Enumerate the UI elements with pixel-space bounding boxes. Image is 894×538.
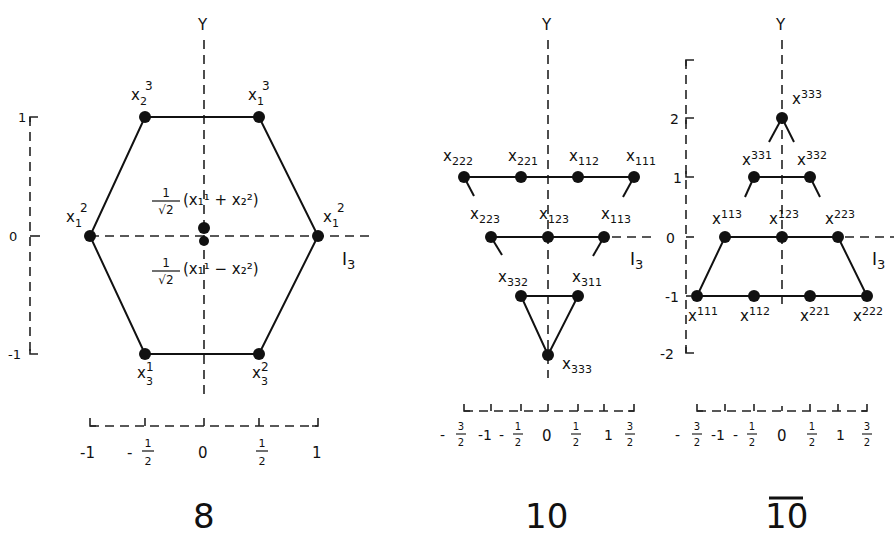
svg-text:-1: -1	[80, 444, 95, 462]
antidecuplet-label-x123: x123	[769, 208, 799, 228]
antidecuplet-state-x223	[832, 231, 844, 243]
svg-text:1: 1	[515, 421, 521, 432]
svg-text:2: 2	[694, 437, 700, 448]
svg-text:1: 1	[162, 256, 170, 270]
svg-text:0: 0	[777, 427, 787, 445]
decuplet-title: 10	[525, 496, 568, 536]
antidecuplet-state-x332	[804, 171, 816, 183]
decuplet-label-x112: x112	[569, 147, 599, 168]
svg-text:2: 2	[864, 437, 870, 448]
octet-label-x3-1: x31	[137, 360, 154, 388]
antidecuplet-label-x112: x112	[740, 305, 770, 325]
octet-state-x3-1	[139, 348, 151, 360]
svg-text:2: 2	[259, 455, 266, 468]
svg-text:1: 1	[604, 427, 613, 443]
decuplet-label-x113: x113	[601, 205, 631, 226]
decuplet-state-x112	[572, 171, 584, 183]
svg-text:2: 2	[573, 437, 579, 448]
octet-label-x2-3: x23	[131, 79, 153, 108]
decuplet-label-x111: x111	[626, 147, 656, 168]
octet-state-x2-3	[139, 111, 151, 123]
svg-text:2: 2	[458, 437, 464, 448]
svg-text:0: 0	[666, 230, 675, 246]
svg-text:-: -	[675, 427, 680, 443]
svg-text:3: 3	[694, 421, 700, 432]
decuplet-state-x111	[628, 171, 640, 183]
antidecuplet-label-x331: x331	[742, 149, 772, 169]
octet-state-right	[312, 230, 324, 242]
svg-text:1: 1	[809, 421, 815, 432]
octet-y-axis-label: Y	[197, 16, 208, 34]
octet-panel: Y I3 x23 x13 x12 x12 x31 x3	[8, 16, 370, 536]
svg-text:2: 2	[627, 437, 633, 448]
antidecuplet-i3-label: I3	[872, 249, 885, 272]
antidecuplet-state-x221	[804, 290, 816, 302]
svg-text:2: 2	[145, 455, 152, 468]
decuplet-label-x311: x311	[572, 268, 602, 289]
svg-text:1: 1	[573, 421, 579, 432]
svg-text:1: 1	[18, 110, 26, 125]
decuplet-state-x223	[485, 231, 497, 243]
octet-state-left	[84, 230, 96, 242]
octet-center-state-lower	[199, 236, 209, 246]
decuplet-i3-label: I3	[630, 249, 643, 272]
octet-label-x1-3: x13	[248, 79, 270, 108]
octet-i3-label: I3	[342, 249, 355, 272]
antidecuplet-y-axis-label: Y	[775, 16, 786, 34]
antidecuplet-panel: Y I3 x333 x331 x332 x113 x123 x223 x111 …	[660, 16, 894, 536]
svg-text:(x₁¹ + x₂²): (x₁¹ + x₂²)	[183, 191, 259, 209]
antidecuplet-label-x111: x111	[688, 305, 718, 325]
svg-text:-: -	[499, 427, 504, 443]
octet-title: 8	[193, 496, 215, 536]
weight-diagram-figure: Y I3 x23 x13 x12 x12 x31 x3	[0, 0, 894, 538]
decuplet-label-x221: x221	[508, 147, 538, 168]
svg-text:(x₁¹ − x₂²): (x₁¹ − x₂²)	[183, 260, 259, 278]
octet-state-x3-2	[253, 348, 265, 360]
decuplet-triangle	[521, 296, 578, 355]
svg-text:0: 0	[542, 427, 552, 445]
antidecuplet-label-x221: x221	[800, 305, 830, 325]
octet-i3-scale: -1 - 1 2 0 1 2 1	[80, 418, 322, 468]
decuplet-label-x223: x223	[470, 205, 500, 226]
decuplet-state-x332	[515, 290, 527, 302]
svg-text:3: 3	[458, 421, 464, 432]
svg-text:-1: -1	[8, 347, 21, 362]
svg-text:3: 3	[864, 421, 870, 432]
antidecuplet-label-x333: x333	[792, 88, 822, 108]
svg-text:-: -	[127, 444, 132, 462]
decuplet-panel: Y I3 x222 x221 x112 x111 x223 x123 x113 …	[440, 16, 656, 536]
svg-text:-: -	[440, 427, 445, 443]
svg-text:-1: -1	[711, 427, 725, 443]
decuplet-label-x123: x123	[539, 205, 569, 226]
decuplet-state-x113	[598, 231, 610, 243]
decuplet-i3-scale: - 3 2 -1 - 1 2 0 1 2 1 3 2	[440, 404, 635, 448]
svg-text:1: 1	[749, 421, 755, 432]
svg-text:1: 1	[259, 437, 266, 450]
svg-text:2: 2	[670, 111, 679, 127]
antidecuplet-state-x331	[748, 171, 760, 183]
antidecuplet-title: 10	[765, 496, 808, 536]
antidecuplet-label-x223: x223	[825, 208, 855, 228]
antidecuplet-state-x111	[691, 290, 703, 302]
decuplet-y-axis-label: Y	[541, 16, 552, 34]
antidecuplet-state-x222	[861, 290, 873, 302]
antidecuplet-state-x113	[719, 231, 731, 243]
svg-text:√2: √2	[158, 273, 173, 287]
svg-text:1: 1	[145, 437, 152, 450]
svg-text:-1: -1	[665, 289, 679, 305]
svg-text:2: 2	[515, 437, 521, 448]
decuplet-label-x333: x333	[562, 355, 592, 376]
octet-center-state-upper	[198, 222, 210, 234]
decuplet-state-x311	[572, 290, 584, 302]
svg-text:1: 1	[162, 186, 170, 200]
octet-label-x3-2: x32	[252, 360, 269, 388]
svg-text:-2: -2	[660, 346, 674, 362]
svg-text:-: -	[733, 427, 738, 443]
antidecuplet-state-x112	[748, 290, 760, 302]
decuplet-state-x333	[542, 349, 554, 361]
svg-text:1: 1	[312, 444, 322, 462]
svg-text:√2: √2	[158, 203, 173, 217]
svg-text:2: 2	[809, 437, 815, 448]
antidecuplet-label-x113: x113	[712, 208, 742, 228]
octet-center-lower-expression: 1 √2 (x₁¹ − x₂²)	[152, 256, 259, 287]
